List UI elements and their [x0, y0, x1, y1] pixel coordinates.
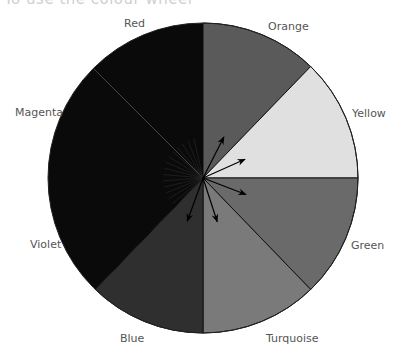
label-red: Red [124, 17, 145, 30]
label-violet: Violet [30, 238, 61, 251]
colour-wheel [0, 0, 393, 357]
label-magenta: Magenta [15, 106, 63, 119]
label-orange: Orange [268, 20, 309, 33]
label-green: Green [351, 239, 384, 252]
label-blue: Blue [120, 332, 144, 345]
label-yellow: Yellow [352, 107, 386, 120]
label-turquoise: Turquoise [266, 332, 319, 345]
